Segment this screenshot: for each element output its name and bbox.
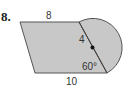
center-point	[91, 46, 95, 50]
composite-figure: 8. 8 4 60° 10	[0, 0, 129, 88]
label-bottom-side: 10	[66, 76, 78, 87]
label-radius: 4	[79, 34, 85, 45]
label-angle: 60°	[82, 61, 97, 72]
problem-number: 8.	[1, 9, 11, 24]
label-top-side: 8	[46, 10, 52, 21]
